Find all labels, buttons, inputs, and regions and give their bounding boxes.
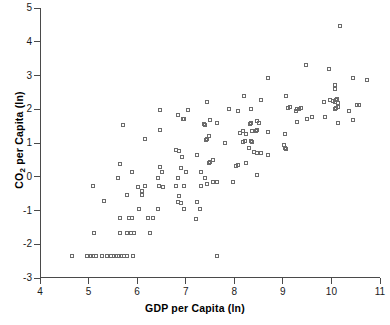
data-point [136, 185, 140, 189]
data-point [205, 100, 209, 104]
data-point [89, 254, 93, 258]
data-point [204, 138, 208, 142]
data-point [174, 184, 178, 188]
data-point [140, 189, 144, 193]
data-point [283, 132, 287, 136]
data-point [207, 134, 211, 138]
data-point [205, 137, 209, 141]
data-point [252, 150, 256, 154]
data-point [234, 164, 238, 168]
data-points-layer [41, 8, 380, 277]
y-axis-tick-label: -3 [4, 273, 32, 283]
data-point [255, 151, 259, 155]
data-point [158, 108, 162, 112]
data-point [255, 128, 259, 132]
data-point [195, 200, 199, 204]
data-point [215, 121, 219, 125]
data-point [130, 170, 134, 174]
data-point [236, 163, 240, 167]
data-point [85, 254, 89, 258]
data-point [333, 107, 337, 111]
data-point [338, 24, 342, 28]
data-point [131, 254, 135, 258]
data-point [257, 121, 261, 125]
data-point [151, 216, 155, 220]
data-point [122, 254, 126, 258]
data-point [158, 128, 162, 132]
data-point [186, 108, 190, 112]
x-axis-tick [380, 278, 381, 284]
data-point [118, 216, 122, 220]
data-point [100, 254, 104, 258]
data-point [241, 129, 245, 133]
y-axis-title: CO2 per Capita (ln) [13, 55, 25, 225]
data-point [336, 101, 340, 105]
x-axis-tick-label: 10 [316, 287, 346, 297]
data-point [116, 176, 120, 180]
data-point [328, 98, 332, 102]
data-point [109, 254, 113, 258]
data-point [255, 173, 259, 177]
data-point [236, 109, 240, 113]
data-point [92, 231, 96, 235]
data-point [255, 119, 259, 123]
data-point [205, 182, 209, 186]
data-point [117, 254, 121, 258]
data-point [132, 231, 136, 235]
data-point [156, 207, 160, 211]
data-point [299, 106, 303, 110]
data-point [208, 118, 212, 122]
data-point [266, 130, 270, 134]
data-point [180, 155, 184, 159]
x-axis-tick-label: 4 [25, 287, 55, 297]
data-point [323, 115, 327, 119]
data-point [295, 120, 299, 124]
data-point [283, 146, 287, 150]
data-point [227, 107, 231, 111]
data-point [333, 83, 337, 87]
y-axis-tick-label: 5 [4, 3, 32, 13]
data-point [179, 166, 183, 170]
data-point [174, 148, 178, 152]
data-point [211, 180, 215, 184]
data-point [334, 106, 338, 110]
data-point [294, 109, 298, 113]
data-point [118, 231, 122, 235]
data-point [127, 216, 131, 220]
data-point [215, 180, 219, 184]
data-point [347, 109, 351, 113]
data-point [331, 99, 335, 103]
data-point [259, 98, 263, 102]
data-point [249, 121, 253, 125]
data-point [202, 122, 206, 126]
data-point [182, 117, 186, 121]
data-point [184, 170, 188, 174]
y-axis-title-suffix: per Capita (ln) [13, 91, 25, 168]
data-point [249, 107, 253, 111]
data-point [203, 176, 207, 180]
data-point [182, 207, 186, 211]
y-axis-tick-label: -2 [4, 239, 32, 249]
data-point [247, 146, 251, 150]
data-point [351, 76, 355, 80]
data-point [158, 165, 162, 169]
data-point [249, 139, 253, 143]
x-axis-title: GDP per Capita (ln) [0, 302, 390, 314]
data-point [194, 217, 198, 221]
data-point [125, 231, 129, 235]
data-point [176, 176, 180, 180]
data-point [327, 67, 331, 71]
data-point [304, 63, 308, 67]
data-point [125, 193, 129, 197]
data-point [199, 184, 203, 188]
data-point [266, 76, 270, 80]
x-axis-tick-label: 9 [268, 287, 298, 297]
data-point [310, 115, 314, 119]
data-point [336, 121, 340, 125]
data-point [140, 193, 144, 197]
data-point [146, 216, 150, 220]
x-axis-tick [331, 278, 332, 284]
data-point [254, 129, 258, 133]
data-point [91, 254, 95, 258]
data-point [231, 180, 235, 184]
